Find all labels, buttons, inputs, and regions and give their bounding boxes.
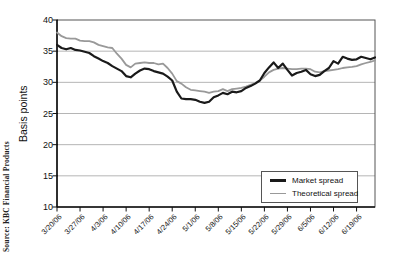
y-tick-label-35: 35 bbox=[33, 46, 53, 56]
y-tick-label-30: 30 bbox=[33, 77, 53, 87]
theoretical-spread-line-swatch bbox=[270, 193, 286, 195]
legend-label-theoretical-spread: Theoretical spread bbox=[292, 189, 358, 198]
y-tick-label-40: 40 bbox=[33, 15, 53, 25]
y-tick-label-10: 10 bbox=[33, 202, 53, 212]
series-line-market-spread bbox=[57, 45, 375, 103]
legend-label-market-spread: Market spread bbox=[292, 176, 343, 185]
legend-item-market-spread: Market spread bbox=[270, 176, 357, 185]
y-tick-label-20: 20 bbox=[33, 140, 53, 150]
legend-item-theoretical-spread: Theoretical spread bbox=[270, 189, 357, 198]
y-tick-label-15: 15 bbox=[33, 171, 53, 181]
legend: Market spread Theoretical spread bbox=[261, 171, 358, 203]
y-tick-label-25: 25 bbox=[33, 109, 53, 119]
line-chart-plot bbox=[0, 0, 396, 263]
spread-chart-figure: Source: KBC Financial Products Basis poi… bbox=[0, 0, 396, 263]
market-spread-line-swatch bbox=[270, 179, 286, 181]
